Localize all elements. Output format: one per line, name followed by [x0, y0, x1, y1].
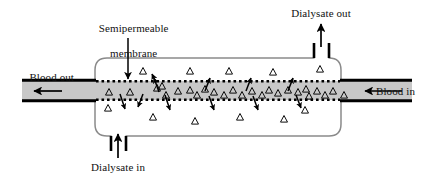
dialysate-in-port	[111, 134, 126, 158]
solute-particles-below-membrane	[105, 105, 309, 125]
blood-channel	[22, 80, 412, 101]
dialysate-out-label: Dialysate out	[269, 7, 373, 20]
dialysate-in-label: Dialysate in	[66, 161, 170, 174]
membrane-label-line2: membrane	[110, 47, 157, 59]
dialysate-out-port	[314, 24, 329, 58]
semipermeable-membrane-label: Semipermeable membrane	[68, 9, 188, 72]
dialyzer-schematic-svg	[0, 0, 428, 185]
dialyzer-diagram: Semipermeable membrane Dialysate out Dia…	[0, 0, 428, 185]
membrane-label-line1: Semipermeable	[99, 22, 169, 34]
blood-out-label: Blood out	[2, 71, 74, 84]
blood-in-label: Blood in	[376, 85, 428, 98]
